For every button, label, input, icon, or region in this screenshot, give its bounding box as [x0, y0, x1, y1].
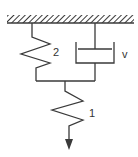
spring-dashpot-diagram: 2 v 1 — [0, 0, 138, 157]
arrow-down-icon — [65, 139, 73, 150]
dashpot-label: v — [122, 48, 128, 60]
spring-2-label: 2 — [53, 46, 59, 58]
spring-1-label: 1 — [89, 107, 95, 119]
spring-2 — [21, 23, 50, 81]
dashpot — [76, 23, 114, 81]
spring-1 — [52, 81, 83, 140]
fixed-wall — [7, 15, 134, 23]
